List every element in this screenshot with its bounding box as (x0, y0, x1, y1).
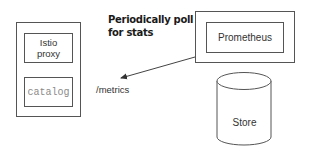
istio-proxy-label-line2: proxy (37, 48, 60, 59)
istio-proxy-box: Istio proxy (24, 33, 73, 63)
poll-annotation-line1: Periodically poll (108, 13, 193, 26)
catalog-box: catalog (24, 77, 73, 107)
metrics-endpoint-label: /metrics (96, 84, 129, 95)
prometheus-box: Prometheus (206, 22, 284, 53)
store-label: Store (217, 117, 272, 128)
prometheus-label: Prometheus (218, 32, 272, 43)
catalog-label: catalog (27, 87, 69, 98)
poll-annotation: Periodically poll for stats (108, 13, 193, 39)
poll-annotation-line2: for stats (108, 26, 193, 39)
poll-arrow (121, 57, 195, 78)
store-cylinder-icon (217, 73, 271, 146)
istio-proxy-label-line1: Istio (37, 37, 60, 48)
